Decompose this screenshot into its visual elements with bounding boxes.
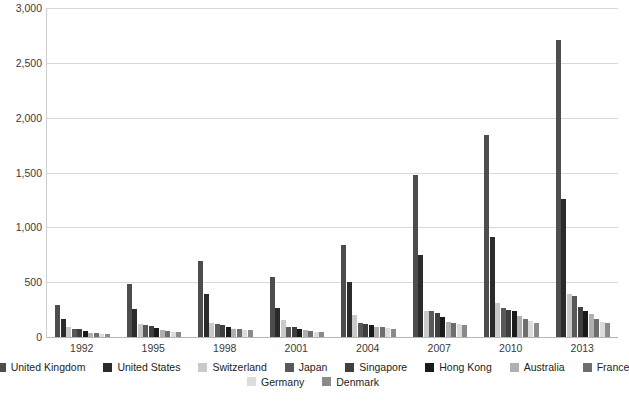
bar xyxy=(429,311,434,337)
legend-label: United States xyxy=(117,362,180,373)
bar xyxy=(220,325,225,337)
legend-swatch-icon xyxy=(425,363,434,372)
legend-swatch-icon xyxy=(345,363,354,372)
bar xyxy=(380,327,385,337)
bar xyxy=(99,334,104,337)
bar xyxy=(341,245,346,337)
bar xyxy=(583,311,588,337)
bar-group xyxy=(413,8,468,337)
x-tick-label: 2007 xyxy=(404,342,476,354)
bar xyxy=(424,311,429,337)
bar xyxy=(561,199,566,337)
bar xyxy=(270,277,275,337)
legend-swatch-icon xyxy=(0,363,6,372)
legend-item[interactable]: Singapore xyxy=(345,362,407,373)
legend-item[interactable]: Australia xyxy=(510,362,565,373)
bar xyxy=(66,327,71,337)
bar-group xyxy=(270,8,325,337)
legend-item[interactable]: Germany xyxy=(247,377,304,388)
legend-item[interactable]: Switzerland xyxy=(198,362,266,373)
bar xyxy=(143,325,148,337)
y-tick-label: 3,000 xyxy=(0,2,42,14)
bar xyxy=(303,330,308,337)
bar xyxy=(275,308,280,337)
legend-row: United KingdomUnited StatesSwitzerlandJa… xyxy=(0,362,626,373)
bar xyxy=(347,282,352,337)
bar xyxy=(198,261,203,337)
bar xyxy=(83,331,88,337)
y-tick-label: 500 xyxy=(0,276,42,288)
legend-label: Germany xyxy=(261,377,304,388)
bar xyxy=(286,327,291,337)
bar xyxy=(237,329,242,337)
bar xyxy=(523,319,528,337)
bar xyxy=(292,327,297,337)
bar xyxy=(501,308,506,337)
bar xyxy=(242,330,247,337)
bar xyxy=(418,255,423,337)
bar xyxy=(512,311,517,337)
x-tick-label: 2013 xyxy=(547,342,619,354)
bar-group xyxy=(484,8,539,337)
bar xyxy=(484,135,489,337)
bar xyxy=(231,329,236,337)
bar xyxy=(391,329,396,337)
bar xyxy=(209,323,214,337)
chart-legend: United KingdomUnited StatesSwitzerlandJa… xyxy=(0,362,626,391)
bar xyxy=(204,294,209,337)
bar xyxy=(589,314,594,337)
bar xyxy=(55,305,60,337)
legend-label: France xyxy=(597,362,629,373)
legend-swatch-icon xyxy=(198,363,207,372)
bar xyxy=(578,307,583,337)
bar xyxy=(215,324,220,337)
bar xyxy=(308,331,313,337)
bar xyxy=(281,320,286,337)
x-tick-label: 1998 xyxy=(189,342,261,354)
bar xyxy=(369,325,374,337)
y-tick-label: 1,500 xyxy=(0,167,42,179)
bar-group xyxy=(198,8,253,337)
legend-item[interactable]: Japan xyxy=(285,362,328,373)
bar xyxy=(160,330,165,337)
legend-label: Australia xyxy=(524,362,565,373)
legend-item[interactable]: Denmark xyxy=(322,377,379,388)
legend-item[interactable]: France xyxy=(583,362,629,373)
bar xyxy=(149,326,154,337)
legend-swatch-icon xyxy=(510,363,519,372)
bar xyxy=(506,310,511,337)
bar xyxy=(88,333,93,337)
bar xyxy=(451,323,456,337)
legend-swatch-icon xyxy=(103,363,112,372)
plot-area xyxy=(46,8,618,338)
bar xyxy=(594,319,599,337)
bar xyxy=(171,332,176,337)
bar xyxy=(385,328,390,337)
legend-item[interactable]: United Kingdom xyxy=(0,362,85,373)
x-tick-label: 2001 xyxy=(261,342,333,354)
bar xyxy=(165,331,170,337)
legend-label: Hong Kong xyxy=(439,362,492,373)
bar xyxy=(105,334,110,337)
bar xyxy=(446,322,451,337)
legend-row: GermanyDenmark xyxy=(0,377,626,388)
y-tick-label: 2,000 xyxy=(0,112,42,124)
bar xyxy=(413,175,418,337)
bar xyxy=(154,328,159,337)
bar xyxy=(314,332,319,337)
bar xyxy=(528,321,533,337)
bar xyxy=(600,322,605,337)
legend-label: United Kingdom xyxy=(11,362,86,373)
legend-item[interactable]: United States xyxy=(103,362,180,373)
bar-group xyxy=(341,8,396,337)
bar xyxy=(374,327,379,337)
y-tick-label: 0 xyxy=(0,331,42,343)
legend-swatch-icon xyxy=(285,363,294,372)
bar xyxy=(127,284,132,337)
legend-item[interactable]: Hong Kong xyxy=(425,362,492,373)
bar xyxy=(572,296,577,337)
bar xyxy=(176,332,181,337)
bar-group xyxy=(556,8,611,337)
bar xyxy=(77,329,82,337)
bar xyxy=(534,323,539,337)
